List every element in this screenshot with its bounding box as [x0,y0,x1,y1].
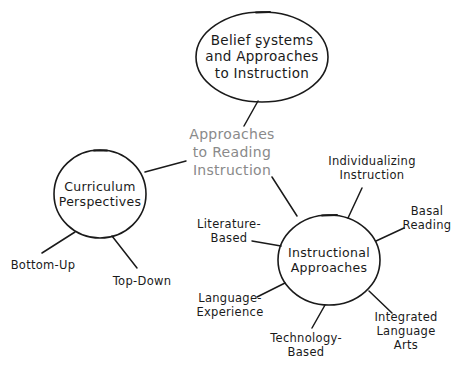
node-shape-belief-systems [196,12,328,102]
connector-curriculum-to-bottom-up [42,232,75,253]
concept-map-diagram: Approaches to Reading Instruction Belief… [0,0,460,372]
connector-center-to-instructional [272,177,297,216]
stroke-overlap-artifact-instructional [322,215,337,216]
connector-instructional-to-language-experience [257,283,285,297]
connector-instructional-to-basal-reading [376,228,404,241]
node-shape-instructional-approaches [278,215,380,305]
connector-curriculum-to-top-down [112,236,137,268]
connector-center-to-curriculum [145,161,186,172]
connector-instructional-to-technology-based [312,305,325,328]
connector-instructional-to-individualizing [348,188,362,218]
node-shape-curriculum-perspectives [54,150,146,238]
stroke-overlap-artifact-belief-systems [256,12,270,13]
connector-center-to-belief-systems [244,101,258,126]
diagram-canvas [0,0,460,372]
connector-instructional-to-literature-based [252,241,281,246]
connector-instructional-to-integrated-language-arts [369,291,392,313]
